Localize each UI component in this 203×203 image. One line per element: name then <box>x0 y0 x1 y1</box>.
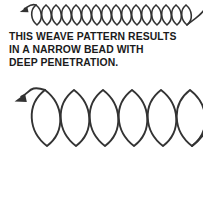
coil-loop <box>72 5 82 25</box>
caption-line: THIS WEAVE PATTERN RESULTS <box>9 31 201 44</box>
coil-loop <box>122 5 132 25</box>
wide-weave-coil-diagram <box>0 85 203 150</box>
caption-line: DEEP PENETRATION. <box>9 57 201 70</box>
coil-loop <box>172 5 182 25</box>
coil-loop <box>119 90 148 146</box>
coil-loop <box>132 5 142 25</box>
coil-loop <box>162 5 172 25</box>
coil-loop <box>152 5 162 25</box>
coil-lead-out <box>192 91 203 146</box>
coil-loop <box>102 5 112 25</box>
coil-loop <box>82 5 92 25</box>
coil-loop <box>52 5 62 25</box>
coil-loop <box>112 5 122 25</box>
coil-loop <box>61 90 90 146</box>
coil-loop <box>92 5 102 25</box>
weave-pattern-figure: THIS WEAVE PATTERN RESULTS IN A NARROW B… <box>0 0 203 203</box>
direction-arrow-icon <box>15 94 27 102</box>
coil-loop <box>32 90 61 146</box>
direction-arrow-icon <box>20 7 29 13</box>
narrow-weave-coil-diagram <box>0 0 203 30</box>
wide-weave-section: THIS WEAVE PATTERN RESULTS IN A WIDE BEA… <box>0 85 203 203</box>
coil-loop <box>142 5 152 25</box>
coil-loop <box>32 5 42 25</box>
coil-loop <box>62 5 72 25</box>
caption-line: IN A NARROW BEAD WITH <box>9 44 201 57</box>
coil-loop <box>148 90 177 146</box>
coil-loop <box>177 90 203 146</box>
coil-loop <box>90 90 119 146</box>
coil-loop <box>42 5 52 25</box>
narrow-weave-caption: THIS WEAVE PATTERN RESULTS IN A NARROW B… <box>9 31 201 69</box>
